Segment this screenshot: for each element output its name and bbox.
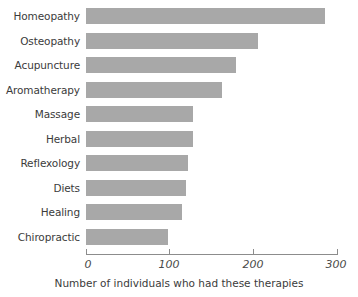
- category-label-homeopathy: Homeopathy: [0, 8, 80, 24]
- bar-homeopathy: [86, 8, 325, 24]
- category-label-reflexology: Reflexology: [0, 155, 80, 171]
- bar-osteopathy: [86, 33, 258, 49]
- category-label-osteopathy: Osteopathy: [0, 33, 80, 49]
- bar-healing: [86, 204, 182, 220]
- bar-reflexology: [86, 155, 188, 171]
- category-label-herbal: Herbal: [0, 131, 80, 147]
- category-label-chiropractic: Chiropractic: [0, 229, 80, 245]
- bar-herbal: [86, 131, 193, 147]
- x-axis-tick-300: [337, 249, 338, 254]
- x-axis-tick-100: [169, 249, 170, 254]
- x-axis-tick-200: [253, 249, 254, 254]
- category-label-diets: Diets: [0, 180, 80, 196]
- bar-diets: [86, 180, 186, 196]
- category-axis-labels: Homeopathy Osteopathy Acupuncture Aromat…: [0, 8, 80, 246]
- x-axis-line: [86, 254, 337, 255]
- category-label-aromatherapy: Aromatherapy: [0, 82, 80, 98]
- bar-chart: Homeopathy Osteopathy Acupuncture Aromat…: [0, 0, 358, 297]
- category-label-healing: Healing: [0, 204, 80, 220]
- x-tick-label-300: 300: [326, 258, 347, 271]
- bar-massage: [86, 106, 193, 122]
- x-tick-label-100: 100: [159, 258, 180, 271]
- category-label-acupuncture: Acupuncture: [0, 57, 80, 73]
- bar-chiropractic: [86, 229, 168, 245]
- x-tick-label-200: 200: [243, 258, 264, 271]
- x-axis-title: Number of individuals who had these ther…: [0, 277, 358, 289]
- bar-aromatherapy: [86, 82, 222, 98]
- x-tick-label-0: 0: [85, 258, 92, 271]
- plot-area: [86, 8, 337, 246]
- bar-acupuncture: [86, 57, 236, 73]
- category-label-massage: Massage: [0, 106, 80, 122]
- x-axis-tick-0: [86, 249, 87, 254]
